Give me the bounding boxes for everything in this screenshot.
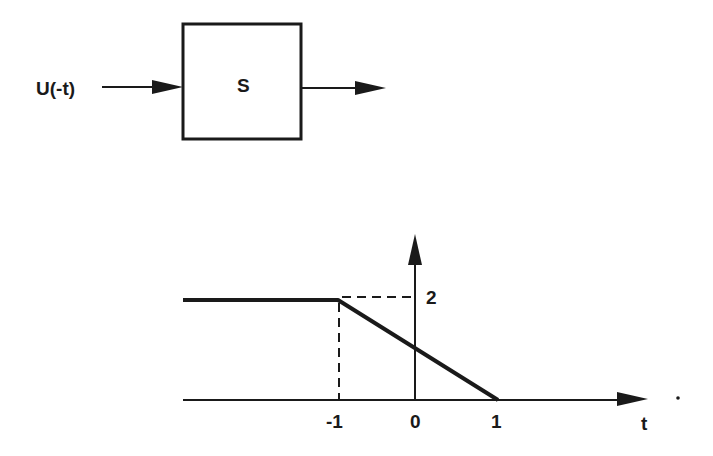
y-tick-2: 2 xyxy=(426,287,437,308)
y-axis-arrowhead-icon xyxy=(408,234,422,265)
output-arrowhead-icon xyxy=(355,81,386,95)
system-label: S xyxy=(237,75,250,96)
x-tick-0: 0 xyxy=(410,411,421,432)
trailing-period-mark xyxy=(676,396,680,400)
input-arrowhead-icon xyxy=(152,80,183,94)
output-graph: -1 0 1 2 t xyxy=(183,234,680,434)
figure-canvas: U(-t) S -1 0 1 2 t xyxy=(0,0,713,456)
x-tick-1: 1 xyxy=(491,411,502,432)
block-diagram: U(-t) S xyxy=(36,24,386,139)
input-label: U(-t) xyxy=(36,78,75,99)
output-signal-curve xyxy=(183,300,498,400)
t-axis-arrowhead-icon xyxy=(617,392,648,406)
t-axis-label: t xyxy=(641,413,648,434)
x-tick-neg1: -1 xyxy=(326,411,343,432)
